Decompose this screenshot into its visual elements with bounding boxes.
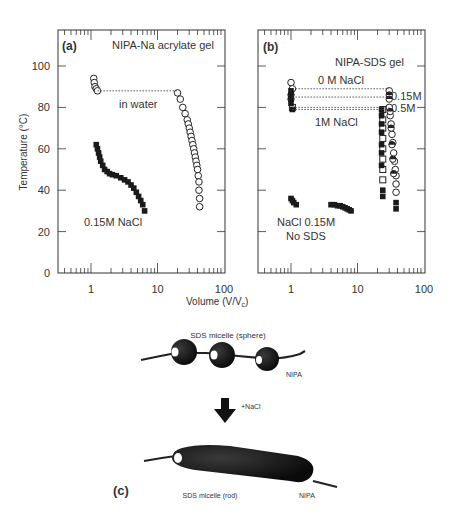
x-tick-label: 100 <box>415 283 433 295</box>
annotation-1m-nacl: 1M NaCl <box>315 116 358 128</box>
sphere-micelle-3 <box>255 347 279 371</box>
data-point <box>393 189 400 196</box>
sphere-micelle-title: SDS micelle (sphere) <box>190 331 266 340</box>
annotation-nacl-0-15m: NaCl 0.15M <box>277 216 335 228</box>
y-tick-label: 60 <box>38 143 50 155</box>
annotation-0-5m: 0.5M <box>391 102 415 114</box>
x-tick-label: 10 <box>151 283 163 295</box>
panel-b-label: (b) <box>263 40 278 54</box>
sphere-micelle-2 <box>209 342 235 368</box>
y-tick-label: 40 <box>38 184 50 196</box>
data-point <box>380 156 386 162</box>
data-point <box>194 166 201 173</box>
x-tick-label: 1 <box>88 283 94 295</box>
data-point <box>379 142 385 148</box>
data-point <box>293 202 299 208</box>
data-point <box>174 90 181 97</box>
panel-b-title: NIPA-SDS gel <box>335 56 404 68</box>
y-tick-label: 20 <box>38 226 50 238</box>
panel-c-label: (c) <box>113 483 129 498</box>
data-point <box>379 129 385 135</box>
data-point <box>182 110 189 117</box>
data-point <box>142 208 148 214</box>
x-tick-label: 10 <box>351 283 363 295</box>
x-axis-label-close: ) <box>245 296 248 307</box>
data-point <box>393 206 399 212</box>
nipa-label-rod: NIPA <box>299 492 315 499</box>
panel-b-x-ticks: 110100 <box>265 30 434 295</box>
panel-b-chart: 110100 (b) NIPA-SDS gel 0 M NaCl 0.15M 0… <box>258 30 433 295</box>
data-point <box>379 113 385 119</box>
data-point <box>179 104 186 111</box>
data-point <box>380 194 386 200</box>
data-point <box>196 179 203 186</box>
data-point <box>380 135 386 141</box>
y-tick-label: 80 <box>38 101 50 113</box>
panel-a-chart: 110100 020406080100 (a) NIPA-Na acrylate… <box>32 30 234 295</box>
data-point <box>195 172 202 179</box>
y-axis-label: Temperature (°C) <box>18 114 29 191</box>
data-point <box>196 187 203 194</box>
nipa-label-sphere: NIPA <box>286 371 302 378</box>
data-point <box>379 163 385 169</box>
data-point <box>380 187 386 193</box>
add-nacl-label: +NaCl <box>241 403 261 410</box>
y-tick-label: 100 <box>32 60 50 72</box>
rod-micelle-title: SDS micelle (rod) <box>183 492 238 500</box>
data-point <box>288 100 294 106</box>
data-point <box>348 208 354 214</box>
panel-a-x-ticks: 110100 <box>65 30 234 295</box>
annotation-in-water: in water <box>119 98 158 110</box>
data-point <box>196 195 203 202</box>
data-point <box>379 150 385 156</box>
y-tick-label: 0 <box>44 267 50 279</box>
data-point <box>177 96 184 103</box>
x-tick-label: 1 <box>288 283 294 295</box>
data-point <box>380 177 386 183</box>
annotation-no-sds: No SDS <box>286 230 326 242</box>
annotation-0-15m-nacl: 0.15M NaCl <box>84 216 142 228</box>
sphere-micelle-1 <box>171 339 197 365</box>
data-point <box>379 121 385 127</box>
data-point <box>140 202 146 208</box>
data-point <box>288 79 295 86</box>
annotation-0m-nacl: 0 M NaCl <box>318 74 364 86</box>
panel-a-data-points <box>90 75 202 214</box>
data-point <box>393 181 400 188</box>
panel-a-label: (a) <box>62 39 77 53</box>
panel-c-schematic: SDS micelle (sphere) NIPA +NaCl (c) SDS … <box>113 331 337 500</box>
rod-micelle <box>172 445 313 482</box>
data-point <box>390 150 397 157</box>
data-point <box>393 200 399 206</box>
panel-a-title: NIPA-Na acrylate gel <box>112 39 214 51</box>
figure: 110100 020406080100 (a) NIPA-Na acrylate… <box>0 0 456 519</box>
x-tick-label: 100 <box>215 283 233 295</box>
data-point <box>389 131 396 138</box>
panel-a-frame <box>58 30 225 273</box>
data-point <box>196 203 203 210</box>
down-arrow-icon <box>214 398 236 423</box>
annotation-0-15m: 0.15M <box>391 90 422 102</box>
x-axis-label-text: Volume (V/V <box>186 296 242 307</box>
panel-b-data-points <box>288 79 400 213</box>
x-axis-label: Volume (V/Vc) <box>186 296 248 308</box>
